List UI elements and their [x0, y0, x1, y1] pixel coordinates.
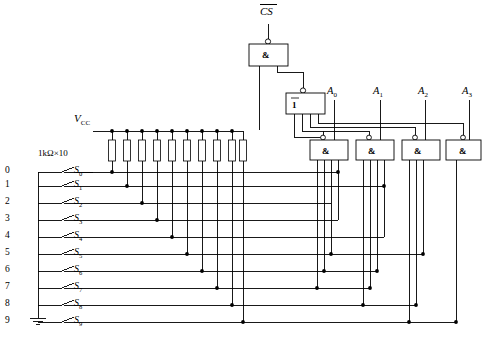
switch-label-s7: S7	[74, 280, 82, 293]
row-index-6: 6	[5, 264, 10, 274]
output-a2-sub: 2	[424, 91, 428, 99]
output-label-a2: A2	[418, 85, 428, 99]
output-a3-sub: 3	[468, 91, 472, 99]
switch-label-s4: S4	[74, 229, 82, 242]
switch-label-s6: S6	[74, 263, 82, 276]
row-index-9: 9	[5, 315, 10, 325]
switch-label-s8: S8	[74, 297, 82, 310]
svg-text:1: 1	[292, 100, 297, 110]
row-index-5: 5	[5, 247, 10, 257]
switch-s0-sub: 0	[79, 170, 82, 177]
cs-input-net	[265, 24, 270, 44]
switch-s4-sub: 4	[79, 235, 82, 242]
vcc-label-group: VCC	[74, 112, 90, 127]
switch-label-s1: S1	[74, 178, 82, 191]
svg-text:&: &	[262, 50, 270, 60]
row-index-0: 0	[5, 165, 10, 175]
resistor-bank-label: 1kΩ×10	[38, 148, 68, 158]
vcc-label: V	[74, 112, 81, 124]
output-label-a0: A0	[327, 85, 337, 99]
switch-rows	[30, 167, 458, 324]
vcc-rail	[93, 131, 243, 140]
row-index-7: 7	[5, 281, 10, 291]
switch-s1-sub: 1	[79, 184, 82, 191]
svg-text:&: &	[322, 146, 330, 156]
switch-s2-sub: 2	[79, 201, 82, 208]
vcc-label-sub: CC	[81, 119, 90, 127]
cs-label-group: CS	[260, 5, 273, 17]
switch-s6-sub: 6	[79, 269, 82, 276]
enable-and-gate	[249, 44, 306, 130]
inverter-gate	[286, 93, 463, 140]
output-label-a1: A1	[373, 85, 383, 99]
switch-s3-sub: 3	[79, 218, 82, 225]
switch-label-s5: S5	[74, 246, 82, 259]
row-index-3: 3	[5, 213, 10, 223]
switch-label-s2: S2	[74, 195, 82, 208]
switch-label-s3: S3	[74, 212, 82, 225]
resistor-bank	[109, 129, 247, 324]
switch-s9-sub: 9	[79, 320, 82, 327]
row-index-8: 8	[5, 298, 10, 308]
switch-s7-sub: 7	[79, 286, 82, 293]
svg-text:&: &	[368, 146, 376, 156]
switch-label-s0: S0	[74, 164, 82, 177]
output-a1-sub: 1	[379, 91, 383, 99]
switch-s5-sub: 5	[79, 252, 82, 259]
svg-text:&: &	[414, 146, 422, 156]
row-index-4: 4	[5, 230, 10, 240]
row-index-2: 2	[5, 196, 10, 206]
output-a0-sub: 0	[333, 91, 337, 99]
circuit-diagram-canvas: & 1 & & & & CS VCC 1kΩ×10 A0 A1 A2 A3 0 …	[0, 0, 487, 341]
output-label-a3: A3	[462, 85, 472, 99]
output-and-gates	[310, 135, 481, 322]
svg-text:&: &	[459, 146, 467, 156]
output-drop-lines	[334, 100, 469, 140]
switch-label-s9: S9	[74, 314, 82, 327]
switch-s8-sub: 8	[79, 303, 82, 310]
row-index-1: 1	[5, 179, 10, 189]
cs-label: CS	[260, 5, 273, 17]
